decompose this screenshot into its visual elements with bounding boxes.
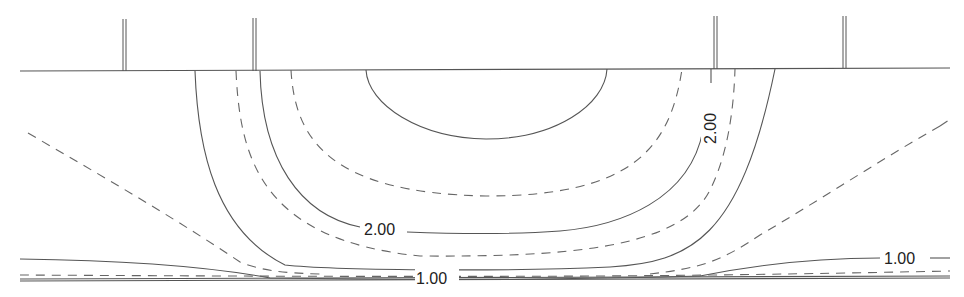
label-2-00-vertical: 2.00: [701, 101, 719, 145]
post-1: [123, 19, 126, 71]
contour-innermost: [366, 69, 607, 139]
contour-inner-dashed: [291, 69, 682, 196]
contour-diagram: 2.00 2.00 1.00 1.00: [0, 0, 964, 297]
contour-dashed-2: [236, 69, 735, 256]
label-1-00-bottom: 1.00: [415, 269, 459, 287]
svg-text:2.00: 2.00: [364, 221, 395, 238]
post-3: [714, 16, 717, 69]
svg-text:2.00: 2.00: [702, 113, 719, 144]
contour-2-00-b: [407, 130, 703, 233]
label-1-00-right: 1.00: [883, 248, 927, 268]
contour-dashed-right-top: [940, 118, 952, 126]
label-2-00-bottom: 2.00: [363, 218, 407, 238]
svg-text:1.00: 1.00: [884, 250, 915, 267]
post-2: [253, 18, 256, 71]
contour-bottom-dashed: [20, 271, 950, 276]
contour-2-00: [260, 71, 360, 227]
svg-text:1.00: 1.00: [416, 270, 447, 287]
ground-surface-line: [20, 68, 950, 71]
post-4: [843, 16, 846, 68]
